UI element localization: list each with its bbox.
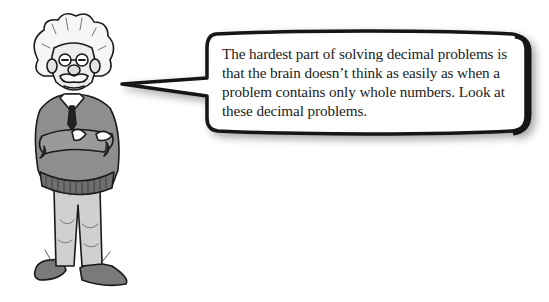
right-shoe: [80, 263, 127, 285]
tie: [68, 106, 76, 130]
pants: [54, 190, 102, 266]
speech-bubble-text: The hardest part of solving decimal prob…: [222, 44, 518, 120]
mustache: [60, 74, 88, 82]
professor-character-icon: [34, 14, 127, 286]
nose: [68, 65, 80, 75]
